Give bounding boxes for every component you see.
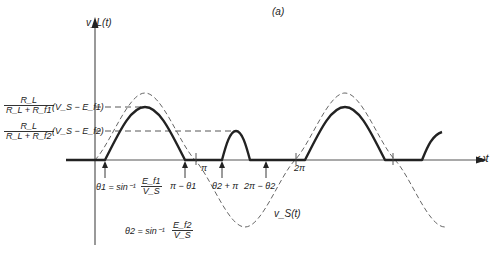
level-1-denominator: R_L + R_f1 xyxy=(4,105,54,115)
theta1-arrow-icon xyxy=(102,161,108,178)
two-pi-label: 2π xyxy=(294,164,305,173)
two-pi-minus-theta2-arrow-icon xyxy=(263,161,269,178)
level-2-numerator: R_L xyxy=(19,122,40,131)
level-1-numerator: R_L xyxy=(19,96,40,105)
theta1-numerator: E_f1 xyxy=(140,177,163,186)
panel-label: (a) xyxy=(272,7,284,17)
theta2-plus-pi-label: θ2 + π xyxy=(212,182,238,191)
level-2-denominator: R_L + R_f2 xyxy=(4,131,54,141)
theta1-denominator: V_S xyxy=(141,186,162,196)
theta2-denominator: V_S xyxy=(172,230,193,240)
y-axis-label: v_L(t) xyxy=(86,18,112,28)
two-pi-minus-theta2-label: 2π − θ2 xyxy=(244,182,275,191)
level-2-factor: (V_S − E_f2) xyxy=(52,127,104,136)
theta2-equation: θ2 = sin⁻¹ xyxy=(125,227,165,236)
source-voltage-label: v_S(t) xyxy=(274,209,301,219)
level-1-factor: (V_S − E_f1) xyxy=(52,103,104,112)
theta1-equation: θ1 = sin⁻¹ xyxy=(96,183,136,192)
level-1-fraction: R_L R_L + R_f1 xyxy=(4,96,54,116)
theta2-numerator: E_f2 xyxy=(171,221,194,230)
pi-minus-theta1-arrow-icon xyxy=(182,161,188,178)
level-2-fraction: R_L R_L + R_f2 xyxy=(4,122,54,142)
pi-label: π xyxy=(201,164,207,173)
x-axis-label: ωt xyxy=(477,153,489,164)
pi-minus-theta1-label: π − θ1 xyxy=(170,182,196,191)
theta1-fraction: E_f1 V_S xyxy=(140,177,163,197)
theta2-plus-pi-arrow-icon xyxy=(219,161,225,178)
theta2-fraction: E_f2 V_S xyxy=(171,221,194,241)
